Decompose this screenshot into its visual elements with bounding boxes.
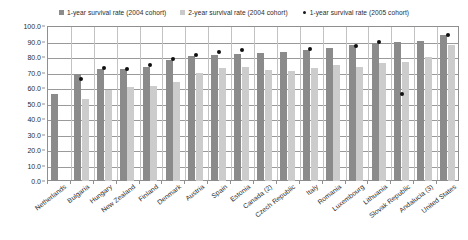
bar-1-year-2004[interactable]	[188, 56, 195, 181]
legend-label: 1-year survival rate (2004 cohort)	[67, 9, 166, 16]
marker-1-year-2005[interactable]	[377, 40, 381, 44]
bar-1-year-2004[interactable]	[349, 45, 356, 181]
bar-group[interactable]	[436, 26, 459, 181]
x-axis-labels: NetherlandsBulgariaHungaryNew ZealandFin…	[47, 183, 459, 240]
x-axis-label: Spain	[210, 183, 228, 199]
chart-legend: 1-year survival rate (2004 cohort) 2-yea…	[0, 5, 468, 19]
bar-1-year-2004[interactable]	[51, 94, 58, 181]
y-axis-tick-label: 100.0	[23, 23, 41, 30]
bar-1-year-2004[interactable]	[234, 54, 241, 181]
bar-group[interactable]	[413, 26, 436, 181]
x-axis-tick-mark	[436, 181, 437, 184]
square-swatch-icon	[180, 10, 185, 15]
x-axis-tick-mark	[322, 181, 323, 184]
bar-group[interactable]	[276, 26, 299, 181]
y-axis-tick-label: 90.0	[27, 38, 41, 45]
bar-group[interactable]	[367, 26, 390, 181]
y-axis-tick-label: 20.0	[27, 147, 41, 154]
bar-1-year-2004[interactable]	[280, 52, 287, 181]
bar-group[interactable]	[322, 26, 345, 181]
bar-group[interactable]	[70, 26, 93, 181]
marker-1-year-2005[interactable]	[240, 48, 244, 52]
x-axis-label: Italy	[305, 183, 319, 196]
marker-1-year-2005[interactable]	[308, 47, 312, 51]
bar-2-year-2004[interactable]	[242, 67, 249, 181]
bar-group[interactable]	[345, 26, 368, 181]
x-axis-tick-mark	[161, 181, 162, 184]
bar-2-year-2004[interactable]	[219, 68, 226, 181]
y-axis-tick-mark	[42, 150, 45, 151]
bar-group[interactable]	[139, 26, 162, 181]
x-axis-label: Denmark	[156, 183, 182, 206]
bar-2-year-2004[interactable]	[288, 71, 295, 181]
survival-rate-bar-chart: 1-year survival rate (2004 cohort) 2-yea…	[0, 0, 468, 240]
marker-1-year-2005[interactable]	[148, 63, 152, 67]
bar-1-year-2004[interactable]	[372, 43, 379, 181]
bar-1-year-2004[interactable]	[257, 53, 264, 181]
bar-group[interactable]	[390, 26, 413, 181]
bar-2-year-2004[interactable]	[425, 57, 432, 181]
bar-1-year-2004[interactable]	[74, 74, 81, 181]
y-axis-tick-label: 80.0	[27, 54, 41, 61]
y-axis-tick-label: 60.0	[27, 85, 41, 92]
bar-group[interactable]	[93, 26, 116, 181]
bar-1-year-2004[interactable]	[440, 35, 447, 181]
marker-1-year-2005[interactable]	[194, 53, 198, 57]
marker-1-year-2005[interactable]	[446, 33, 450, 37]
legend-item-2-year-2004: 2-year survival rate (2004 cohort)	[180, 9, 287, 16]
bar-1-year-2004[interactable]	[326, 48, 333, 181]
x-axis-tick-mark	[413, 181, 414, 184]
bar-group[interactable]	[116, 26, 139, 181]
marker-1-year-2005[interactable]	[400, 92, 404, 96]
marker-1-year-2005[interactable]	[79, 77, 83, 81]
bar-2-year-2004[interactable]	[265, 70, 272, 181]
bar-2-year-2004[interactable]	[150, 86, 157, 181]
x-axis-tick-mark	[367, 181, 368, 184]
marker-1-year-2005[interactable]	[171, 57, 175, 61]
marker-1-year-2005[interactable]	[125, 67, 129, 71]
bar-group[interactable]	[47, 26, 70, 181]
y-axis: 100.090.080.070.060.050.040.030.020.010.…	[0, 26, 45, 181]
bar-1-year-2004[interactable]	[211, 55, 218, 181]
bar-1-year-2004[interactable]	[303, 50, 310, 181]
legend-label: 1-year survival rate (2005 cohort)	[310, 9, 409, 16]
bar-2-year-2004[interactable]	[402, 62, 409, 181]
x-axis-label: Slovak Republic	[368, 183, 412, 219]
bars-layer	[47, 26, 459, 181]
bar-2-year-2004[interactable]	[311, 68, 318, 181]
y-axis-tick-mark	[42, 88, 45, 89]
bar-1-year-2004[interactable]	[166, 60, 173, 181]
square-swatch-icon	[59, 10, 64, 15]
x-axis-tick-mark	[299, 181, 300, 184]
bar-2-year-2004[interactable]	[127, 87, 134, 181]
bar-2-year-2004[interactable]	[356, 67, 363, 181]
y-axis-tick-label: 30.0	[27, 131, 41, 138]
marker-1-year-2005[interactable]	[102, 66, 106, 70]
marker-1-year-2005[interactable]	[217, 50, 221, 54]
bar-2-year-2004[interactable]	[196, 73, 203, 182]
bar-1-year-2004[interactable]	[394, 42, 401, 181]
marker-1-year-2005[interactable]	[354, 44, 358, 48]
bar-group[interactable]	[207, 26, 230, 181]
bar-2-year-2004[interactable]	[82, 99, 89, 181]
bar-1-year-2004[interactable]	[97, 69, 104, 181]
bar-2-year-2004[interactable]	[105, 90, 112, 181]
bar-2-year-2004[interactable]	[379, 63, 386, 181]
bar-2-year-2004[interactable]	[333, 65, 340, 181]
x-axis-tick-mark	[116, 181, 117, 184]
bar-group[interactable]	[253, 26, 276, 181]
bar-2-year-2004[interactable]	[448, 45, 455, 181]
bar-group[interactable]	[184, 26, 207, 181]
y-axis-tick-mark	[42, 72, 45, 73]
bar-1-year-2004[interactable]	[143, 67, 150, 181]
bar-2-year-2004[interactable]	[173, 82, 180, 181]
bar-1-year-2004[interactable]	[120, 69, 127, 181]
y-axis-tick-mark	[42, 103, 45, 104]
x-axis-tick-mark	[276, 181, 277, 184]
x-axis-tick-mark	[184, 181, 185, 184]
x-axis-label: Austria	[184, 183, 205, 202]
y-axis-tick-mark	[42, 165, 45, 166]
y-axis-tick-mark	[42, 134, 45, 135]
bar-1-year-2004[interactable]	[417, 41, 424, 181]
bar-group[interactable]	[161, 26, 184, 181]
